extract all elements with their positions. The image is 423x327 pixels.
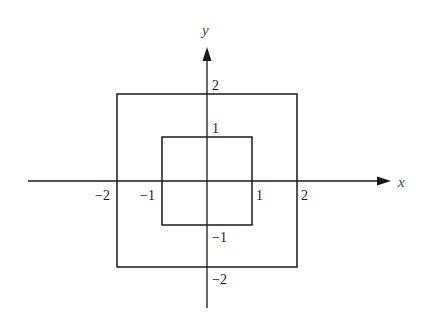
tick-x-pos2: 2 — [301, 188, 308, 203]
tick-y-neg2: −2 — [212, 272, 227, 287]
tick-y-pos2: 2 — [212, 78, 219, 93]
y-axis-label: y — [200, 22, 209, 38]
tick-y-pos1: 1 — [212, 121, 219, 136]
x-axis-arrow-icon — [377, 177, 391, 186]
x-axis-label: x — [397, 174, 405, 190]
tick-x-pos1: 1 — [256, 188, 263, 203]
tick-x-neg2: −2 — [95, 188, 110, 203]
tick-y-neg1: −1 — [212, 230, 227, 245]
coordinate-diagram: x y −2 −1 1 2 2 1 −1 −2 — [0, 0, 423, 327]
tick-x-neg1: −1 — [140, 188, 155, 203]
y-axis-arrow-icon — [203, 47, 212, 61]
